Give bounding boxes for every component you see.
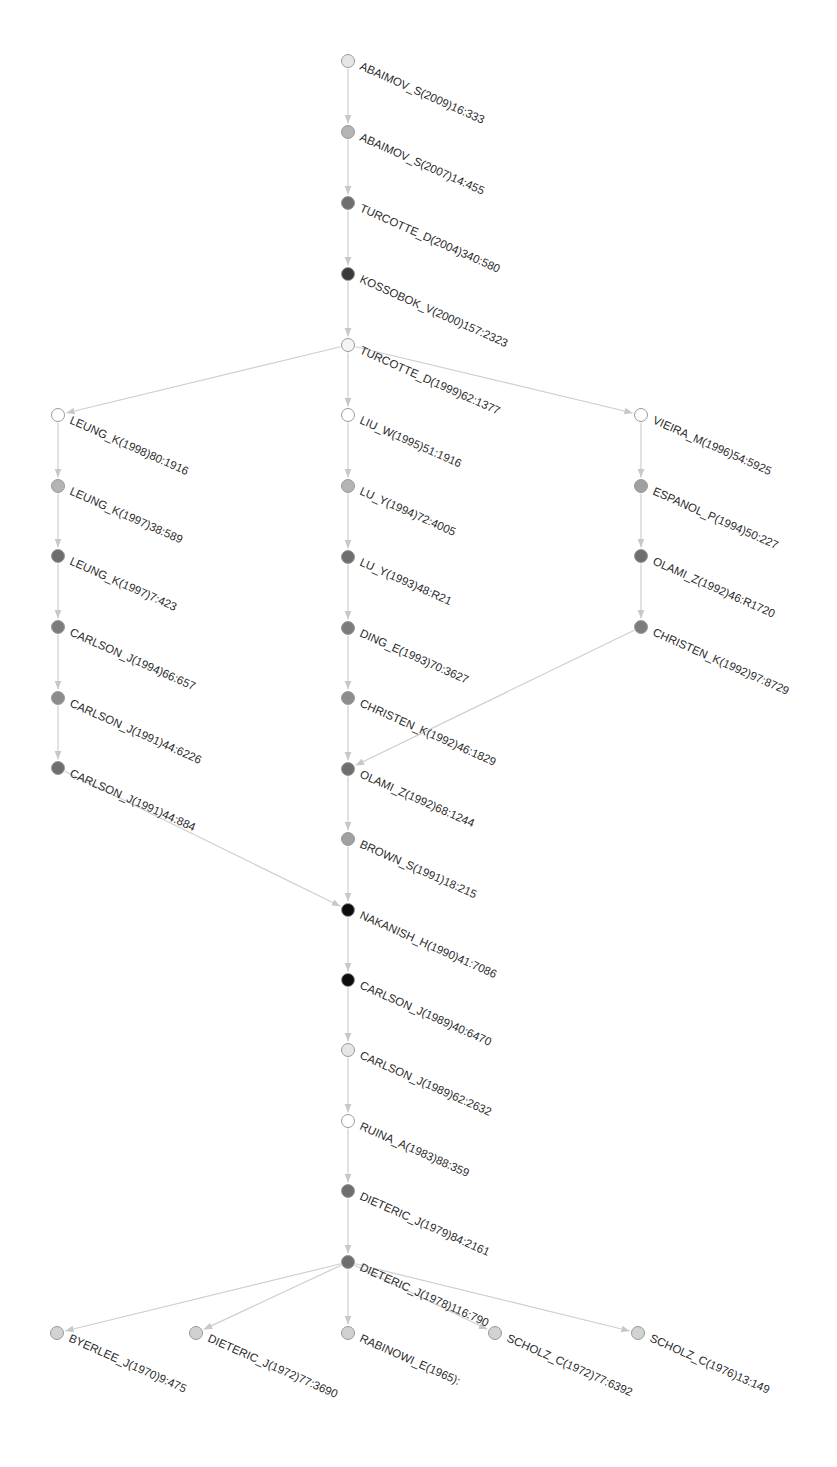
node-label: VIEIRA_M(1996)54:5925	[651, 414, 773, 477]
node-label: CARLSON_J(1991)44:6226	[68, 697, 203, 766]
node-label: TURCOTTE_D(2004)340:580	[358, 202, 502, 275]
node-circle-icon[interactable]	[342, 339, 355, 352]
graph-node[interactable]: RUINA_A(1983)88:359	[342, 1115, 472, 1179]
node-label: DING_E(1993)70:3627	[358, 627, 470, 686]
node-label: CHRISTEN_K(1992)46:1829	[358, 697, 498, 768]
node-label: LEUNG_K(1997)38:589	[68, 485, 184, 546]
node-circle-icon[interactable]	[342, 126, 355, 139]
node-circle-icon[interactable]	[489, 1327, 502, 1340]
graph-node[interactable]: CHRISTEN_K(1992)46:1829	[342, 692, 498, 768]
graph-node[interactable]: KOSSOBOK_V(2000)157:2323	[342, 268, 510, 350]
node-circle-icon[interactable]	[632, 1327, 645, 1340]
node-label: DIETERIC_J(1972)77:3690	[206, 1332, 339, 1400]
node-circle-icon[interactable]	[342, 551, 355, 564]
graph-node[interactable]: SCHOLZ_C(1972)77:6392	[489, 1327, 635, 1399]
node-circle-icon[interactable]	[635, 621, 648, 634]
graph-node[interactable]: CARLSON_J(1991)44:6226	[52, 692, 204, 766]
graph-node[interactable]: DIETERIC_J(1979)84:2161	[342, 1185, 492, 1259]
node-circle-icon[interactable]	[342, 409, 355, 422]
graph-node[interactable]: ABAIMOV_S(2009)16:333	[342, 55, 487, 126]
node-circle-icon[interactable]	[342, 55, 355, 68]
graph-node[interactable]: VIEIRA_M(1996)54:5925	[635, 409, 774, 478]
node-circle-icon[interactable]	[52, 409, 65, 422]
node-label: BYERLEE_J(1970)9:475	[67, 1332, 188, 1395]
graph-node[interactable]: DIETERIC_J(1978)116:790	[342, 1256, 491, 1329]
node-label: ABAIMOV_S(2007)14:455	[358, 131, 486, 197]
node-label: LU_Y(1994)72:4005	[358, 485, 458, 538]
node-circle-icon[interactable]	[52, 621, 65, 634]
citation-edge	[66, 347, 340, 413]
graph-node[interactable]: ABAIMOV_S(2007)14:455	[342, 126, 487, 197]
node-label: TURCOTTE_D(1999)62:1377	[358, 344, 502, 417]
graph-node[interactable]: OLAMI_Z(1992)46:R1720	[635, 550, 777, 620]
node-circle-icon[interactable]	[342, 833, 355, 846]
graph-node[interactable]: SCHOLZ_C(1976)13:149	[632, 1327, 772, 1396]
node-label: RABINOWI_E(1965):	[358, 1332, 462, 1387]
node-circle-icon[interactable]	[190, 1327, 203, 1340]
graph-node[interactable]: TURCOTTE_D(1999)62:1377	[342, 339, 503, 417]
node-label: LIU_W(1995)51:1916	[358, 414, 463, 470]
node-circle-icon[interactable]	[342, 1185, 355, 1198]
node-label: DIETERIC_J(1979)84:2161	[358, 1190, 491, 1258]
node-circle-icon[interactable]	[342, 763, 355, 776]
graph-node[interactable]: OLAMI_Z(1992)68:1244	[342, 763, 477, 830]
node-label: CARLSON_J(1991)44:884	[68, 767, 198, 834]
graph-node[interactable]: BROWN_S(1991)18:215	[342, 833, 479, 901]
node-label: CHRISTEN_K(1992)97:8729	[651, 626, 791, 697]
graph-node[interactable]: LIU_W(1995)51:1916	[342, 409, 464, 470]
citation-graph: ABAIMOV_S(2009)16:333ABAIMOV_S(2007)14:4…	[0, 0, 837, 1467]
graph-node[interactable]: TURCOTTE_D(2004)340:580	[342, 197, 503, 275]
node-label: ABAIMOV_S(2009)16:333	[358, 60, 486, 126]
node-circle-icon[interactable]	[52, 692, 65, 705]
graph-node[interactable]: CARLSON_J(1991)44:884	[52, 762, 199, 834]
node-label: ESPANOL_P(1994)50:227	[651, 485, 780, 551]
node-circle-icon[interactable]	[342, 974, 355, 987]
graph-node[interactable]: LEUNG_K(1997)38:589	[52, 480, 185, 546]
node-circle-icon[interactable]	[52, 550, 65, 563]
node-circle-icon[interactable]	[342, 904, 355, 917]
citation-edge	[204, 1265, 342, 1329]
graph-node[interactable]: LU_Y(1994)72:4005	[342, 480, 458, 538]
node-circle-icon[interactable]	[342, 692, 355, 705]
node-circle-icon[interactable]	[51, 1327, 64, 1340]
node-circle-icon[interactable]	[342, 197, 355, 210]
graph-node[interactable]: LU_Y(1993)48:R21	[342, 551, 454, 608]
node-label: CARLSON_J(1989)62:2632	[358, 1049, 493, 1118]
graph-node[interactable]: BYERLEE_J(1970)9:475	[51, 1327, 189, 1395]
node-circle-icon[interactable]	[342, 268, 355, 281]
node-label: LEUNG_K(1998)80:1916	[68, 414, 190, 477]
node-label: SCHOLZ_C(1976)13:149	[648, 1332, 771, 1396]
graph-node[interactable]: RABINOWI_E(1965):	[342, 1327, 463, 1388]
graph-node[interactable]: LEUNG_K(1998)80:1916	[52, 409, 191, 478]
graph-node[interactable]: CARLSON_J(1989)62:2632	[342, 1044, 494, 1118]
node-circle-icon[interactable]	[635, 550, 648, 563]
node-circle-icon[interactable]	[342, 1256, 355, 1269]
citation-edge	[355, 1264, 629, 1331]
node-label: NAKANISH_H(1990)41:7086	[358, 909, 498, 980]
node-label: BROWN_S(1991)18:215	[358, 838, 479, 900]
node-circle-icon[interactable]	[635, 480, 648, 493]
node-circle-icon[interactable]	[342, 1327, 355, 1340]
graph-node[interactable]: LEUNG_K(1997)7:423	[52, 550, 179, 613]
node-circle-icon[interactable]	[635, 409, 648, 422]
node-circle-icon[interactable]	[342, 622, 355, 635]
nodes-layer: ABAIMOV_S(2009)16:333ABAIMOV_S(2007)14:4…	[51, 55, 791, 1401]
graph-node[interactable]: CARLSON_J(1989)40:6470	[342, 974, 494, 1048]
node-label: LEUNG_K(1997)7:423	[68, 555, 179, 613]
node-label: LU_Y(1993)48:R21	[358, 556, 453, 607]
graph-node[interactable]: CHRISTEN_K(1992)97:8729	[635, 621, 791, 697]
node-circle-icon[interactable]	[342, 1115, 355, 1128]
graph-node[interactable]: CARLSON_J(1994)66:657	[52, 621, 198, 693]
graph-node[interactable]: NAKANISH_H(1990)41:7086	[342, 904, 499, 981]
node-label: OLAMI_Z(1992)46:R1720	[651, 555, 777, 620]
graph-node[interactable]: DING_E(1993)70:3627	[342, 622, 471, 686]
node-circle-icon[interactable]	[342, 1044, 355, 1057]
graph-node[interactable]: ESPANOL_P(1994)50:227	[635, 480, 781, 552]
node-circle-icon[interactable]	[52, 480, 65, 493]
node-label: CARLSON_J(1989)40:6470	[358, 979, 493, 1048]
node-circle-icon[interactable]	[342, 480, 355, 493]
node-label: SCHOLZ_C(1972)77:6392	[505, 1332, 634, 1398]
node-circle-icon[interactable]	[52, 762, 65, 775]
node-label: DIETERIC_J(1978)116:790	[358, 1261, 491, 1329]
graph-node[interactable]: DIETERIC_J(1972)77:3690	[190, 1327, 340, 1401]
